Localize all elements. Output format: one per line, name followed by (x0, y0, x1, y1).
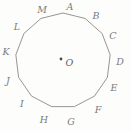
polygon-figure: ABCDEFGHIJKLM O (0, 0, 131, 133)
vertex-label-m: M (37, 5, 47, 15)
regular-tridecagon-outline (16, 13, 110, 107)
vertex-label-a: A (67, 2, 74, 12)
vertex-label-d: D (116, 57, 124, 67)
vertex-label-g: G (67, 117, 75, 127)
vertex-label-i: I (20, 99, 24, 109)
vertex-label-b: B (93, 11, 100, 21)
vertex-label-k: K (2, 47, 9, 57)
vertex-label-f: F (95, 105, 102, 115)
vertex-label-l: L (14, 22, 20, 32)
center-point-dot-icon (60, 58, 63, 61)
center-label-o: O (66, 58, 74, 68)
vertex-label-c: C (109, 31, 116, 41)
vertex-label-e: E (111, 83, 118, 93)
vertex-label-j: J (6, 76, 10, 86)
vertex-label-h: H (40, 115, 48, 125)
